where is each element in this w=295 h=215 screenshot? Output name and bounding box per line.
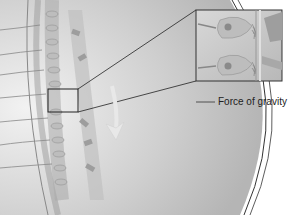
force-of-gravity-label: Force of gravity [218,96,287,107]
otolith-diagram: Force of gravity [0,0,295,215]
inset-magnification [196,10,282,81]
diagram-canvas [0,0,295,215]
